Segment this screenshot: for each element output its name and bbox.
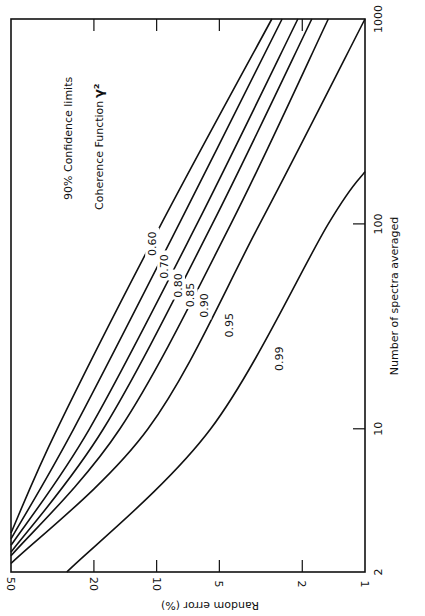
error-tick-label: 5 — [212, 581, 225, 588]
error-tick-label: 10 — [150, 577, 163, 591]
curve-label: 0.99 — [273, 346, 286, 371]
coherence-label: Coherence Function — [93, 101, 106, 210]
curve-label: 0.80 — [172, 273, 185, 298]
curve-080 — [11, 19, 298, 545]
gamma-symbol: γ² — [91, 83, 106, 98]
curve-label: 0.90 — [198, 293, 211, 318]
n-axis-title: Number of spectra averaged — [388, 217, 401, 375]
curve-label: 0.85 — [184, 283, 197, 308]
curve-label: 0.95 — [223, 313, 236, 338]
error-axis-title: Random error (%) — [161, 599, 259, 612]
n-tick-label: 100 — [372, 213, 385, 234]
error-tick-label: 20 — [87, 577, 100, 591]
confidence-annotation: 90% Confidence limits — [62, 77, 75, 200]
error-tick-label: 1 — [358, 581, 371, 588]
curve-070 — [11, 19, 282, 539]
n-tick-label: 1000 — [372, 5, 385, 33]
error-tick-label: 50 — [4, 577, 17, 591]
n-tick-label: 2 — [372, 569, 385, 576]
coherence-error-chart: 2101001000502010521 0.600.700.800.850.90… — [0, 0, 425, 616]
curve-085 — [11, 19, 312, 552]
n-tick-label: 10 — [372, 422, 385, 436]
error-tick-label: 2 — [295, 581, 308, 588]
curve-099 — [67, 172, 365, 572]
curve-label: 0.70 — [158, 254, 171, 279]
coherence-annotation: Coherence Function γ² — [91, 83, 106, 210]
